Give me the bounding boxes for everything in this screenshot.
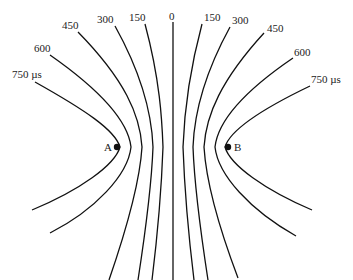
label-right-300: 300 — [232, 14, 249, 26]
label-left-150: 150 — [129, 11, 146, 23]
label-right-450: 450 — [267, 22, 284, 34]
label-left-600: 600 — [34, 42, 51, 54]
contour-left-150 — [145, 24, 163, 280]
label-right-150: 150 — [204, 11, 221, 23]
focus-b-point — [225, 144, 231, 150]
label-center-0: 0 — [169, 10, 175, 22]
focus-a-point — [114, 144, 120, 150]
focus-a-label: A — [104, 141, 112, 153]
focus-b-label: B — [234, 141, 241, 153]
contour-right-300 — [193, 27, 230, 280]
contour-left-450 — [78, 32, 142, 280]
hyperbola-diagram: A B 750 µs 600 450 300 150 0 150 300 450… — [0, 0, 353, 280]
contour-right-150 — [183, 24, 202, 280]
label-right-600: 600 — [294, 46, 311, 58]
label-left-450: 450 — [62, 19, 79, 31]
contour-left-300 — [115, 26, 153, 280]
label-right-750: 750 µs — [311, 73, 341, 85]
label-left-300: 300 — [97, 13, 114, 25]
contour-right-450 — [204, 33, 264, 278]
label-left-750: 750 µs — [12, 68, 42, 80]
